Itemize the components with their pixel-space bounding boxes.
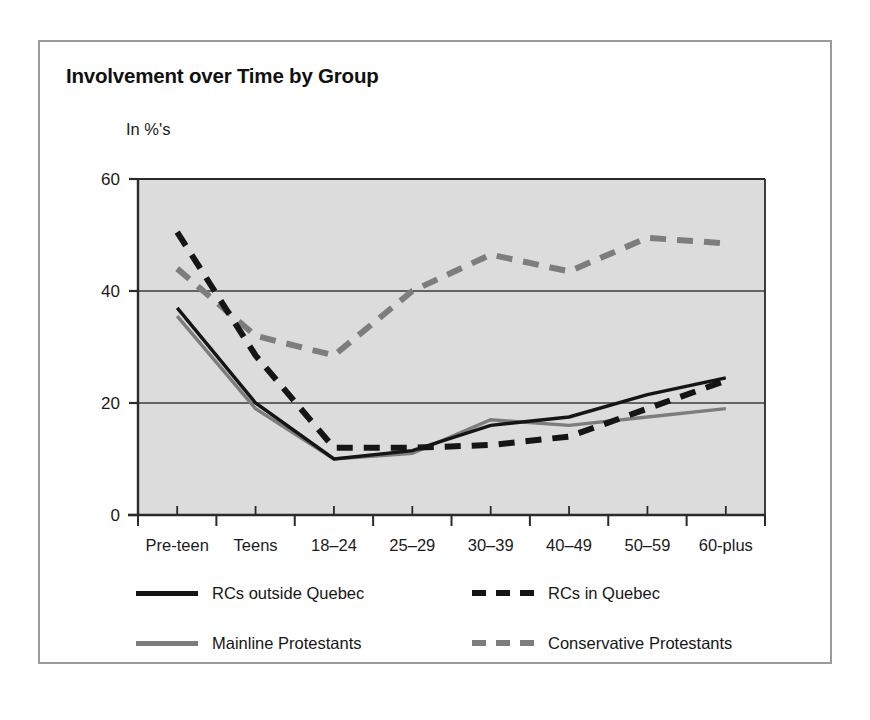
line-chart-svg: 0204060 Pre-teenTeens18–2425–2930–3940–4…	[40, 42, 834, 666]
x-tick-labels-group: Pre-teenTeens18–2425–2930–3940–4950–5960…	[146, 536, 753, 554]
legend-label: Conservative Protestants	[548, 634, 732, 653]
legend-label: RCs outside Quebec	[212, 584, 364, 603]
x-tick-label-6: 50–59	[624, 536, 670, 554]
x-tick-label-7: 60-plus	[699, 536, 753, 554]
chart-legend: RCs outside Quebec RCs in Quebec Mainlin…	[136, 582, 796, 654]
legend-item-conservative-protestants: Conservative Protestants	[472, 632, 772, 654]
y-tick-label-20: 20	[101, 394, 120, 413]
x-tick-label-3: 25–29	[389, 536, 435, 554]
x-tick-label-2: 18–24	[311, 536, 357, 554]
legend-label: Mainline Protestants	[212, 634, 362, 653]
legend-swatch-solid-black-icon	[136, 591, 198, 596]
plot-area: 0204060 Pre-teenTeens18–2425–2930–3940–4…	[40, 42, 834, 666]
x-tick-label-1: Teens	[234, 536, 278, 554]
y-tick-label-0: 0	[111, 506, 120, 525]
legend-swatch-dashed-gray-icon	[472, 640, 534, 646]
plot-background	[138, 179, 765, 515]
legend-item-rcs-in-quebec: RCs in Quebec	[472, 582, 772, 604]
x-tick-label-4: 30–39	[468, 536, 514, 554]
legend-swatch-solid-gray-icon	[136, 641, 198, 646]
legend-item-rcs-outside-quebec: RCs outside Quebec	[136, 582, 436, 604]
x-tick-label-5: 40–49	[546, 536, 592, 554]
legend-label: RCs in Quebec	[548, 584, 660, 603]
y-tick-labels-group: 0204060	[101, 170, 120, 525]
y-tick-label-60: 60	[101, 170, 120, 189]
legend-item-mainline-protestants: Mainline Protestants	[136, 632, 436, 654]
plot-background-group	[138, 179, 765, 515]
x-tick-label-0: Pre-teen	[146, 536, 209, 554]
legend-swatch-dashed-black-icon	[472, 590, 534, 596]
figure-frame: Involvement over Time by Group In %'s 02…	[38, 40, 832, 664]
y-tick-label-40: 40	[101, 282, 120, 301]
